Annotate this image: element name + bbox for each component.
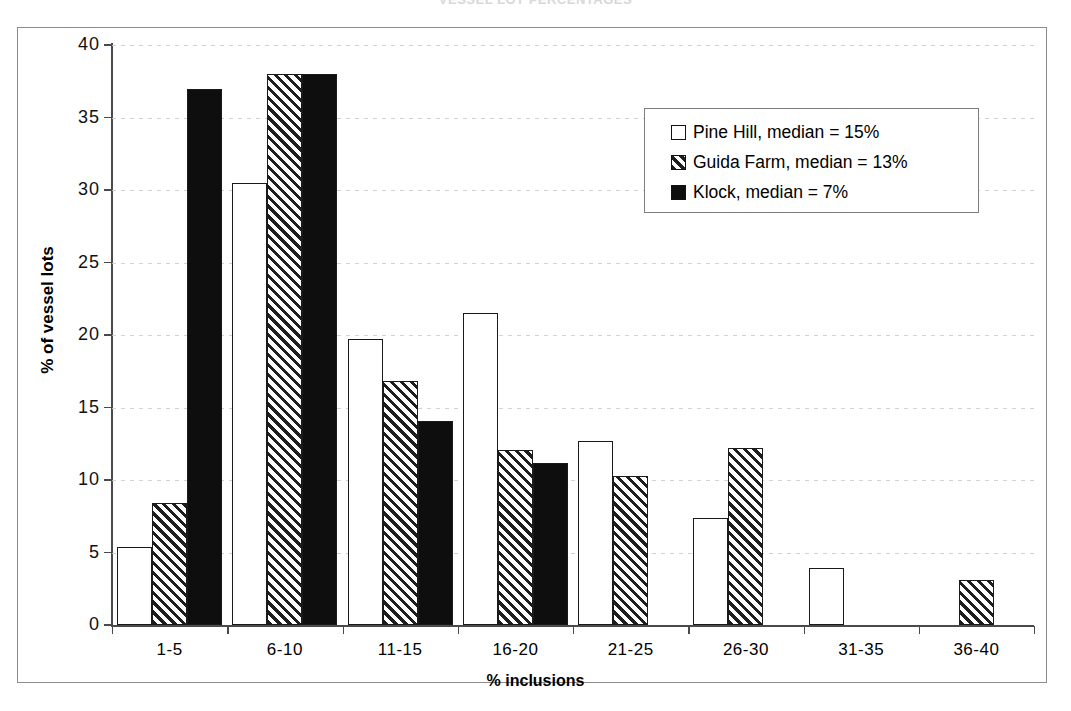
y-axis-tick-label: 30 — [56, 179, 100, 200]
x-axis-tick — [343, 626, 344, 634]
x-axis-tick — [804, 626, 805, 634]
bar — [348, 339, 383, 625]
bar — [728, 448, 763, 625]
bar — [187, 89, 222, 626]
bar — [232, 183, 267, 625]
legend-item-label: Klock, median = 7% — [693, 182, 848, 203]
y-axis-tick-label: 35 — [56, 107, 100, 128]
chart-legend: Pine Hill, median = 15%Guida Farm, media… — [644, 108, 979, 213]
y-axis-tick-label: 40 — [56, 34, 100, 55]
y-axis-title: % of vessel lots — [38, 200, 58, 420]
y-axis-tick-label: 0 — [56, 614, 100, 635]
x-axis-tick — [458, 626, 459, 634]
y-axis-tick — [104, 552, 112, 553]
bar — [418, 421, 453, 625]
x-axis-tick — [1034, 626, 1035, 634]
legend-item-label: Guida Farm, median = 13% — [693, 152, 907, 173]
legend-item[interactable]: Pine Hill, median = 15% — [671, 117, 978, 147]
bar — [383, 381, 418, 625]
legend-swatch-icon — [671, 185, 686, 200]
y-axis-tick — [104, 44, 112, 45]
legend-item[interactable]: Guida Farm, median = 13% — [671, 147, 978, 177]
bar — [302, 74, 337, 625]
figure-title: VESSEL LOT PERCENTAGES — [0, 0, 1071, 4]
bar — [498, 450, 533, 625]
y-axis-tick — [104, 479, 112, 480]
x-axis-category-label: 36-40 — [906, 640, 1046, 660]
bar — [578, 441, 613, 625]
y-axis-tick — [104, 624, 112, 625]
x-axis-tick — [573, 626, 574, 634]
x-axis-tick — [227, 626, 228, 634]
bar — [693, 518, 728, 625]
x-axis-tick — [919, 626, 920, 634]
legend-swatch-icon — [671, 125, 686, 140]
y-axis-tick — [104, 262, 112, 263]
bar — [117, 547, 152, 625]
y-axis-tick-label: 25 — [56, 252, 100, 273]
legend-item-label: Pine Hill, median = 15% — [693, 122, 879, 143]
bar — [959, 580, 994, 625]
y-axis-tick — [104, 407, 112, 408]
bar — [613, 476, 648, 625]
y-axis-tick-label: 15 — [56, 397, 100, 418]
y-axis-tick — [104, 117, 112, 118]
y-axis-tick-label: 20 — [56, 324, 100, 345]
bar — [533, 463, 568, 625]
x-axis-tick — [688, 626, 689, 634]
y-axis-tick-label: 5 — [56, 542, 100, 563]
bar — [267, 74, 302, 625]
legend-item[interactable]: Klock, median = 7% — [671, 177, 978, 207]
bar — [152, 503, 187, 625]
legend-swatch-icon — [671, 155, 686, 170]
y-axis-tick — [104, 189, 112, 190]
x-axis-tick — [112, 626, 113, 634]
y-axis-tick — [104, 334, 112, 335]
gridline — [112, 45, 1034, 46]
bar — [463, 313, 498, 625]
y-axis-tick-label: 10 — [56, 469, 100, 490]
bar — [809, 568, 844, 625]
x-axis-title: % inclusions — [0, 672, 1071, 690]
